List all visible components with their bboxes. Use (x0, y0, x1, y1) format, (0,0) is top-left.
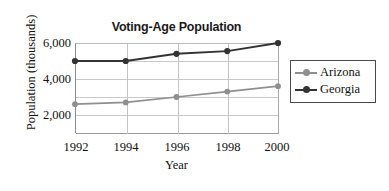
legend-label-georgia: Georgia (320, 83, 360, 96)
y-tick-label-2000: 2,000 (11, 108, 71, 123)
x-axis-title: Year (75, 158, 278, 173)
data-point (174, 94, 180, 100)
legend-label-arizona: Arizona (320, 66, 360, 79)
data-point (72, 101, 78, 107)
legend-item-arizona: Arizona (295, 64, 370, 81)
legend-marker-arizona (295, 67, 317, 79)
data-point (173, 51, 179, 57)
data-point (275, 40, 281, 46)
y-tick-label-4000: 4,000 (11, 72, 71, 87)
chart-figure: Voting-Age Population Population (thousa… (0, 0, 389, 191)
data-point (224, 89, 230, 95)
series-layer (75, 43, 278, 133)
data-point (275, 83, 281, 89)
chart-legend: Arizona Georgia (290, 60, 376, 103)
data-point (72, 58, 78, 64)
data-point (123, 100, 129, 106)
data-point (123, 58, 129, 64)
legend-item-georgia: Georgia (295, 81, 370, 98)
x-tick-label-2000: 2000 (247, 140, 307, 155)
legend-marker-georgia (295, 84, 317, 96)
y-tick-label-6000: 6,000 (11, 36, 71, 51)
data-point (224, 48, 230, 54)
chart-title: Voting-Age Population (75, 20, 278, 34)
